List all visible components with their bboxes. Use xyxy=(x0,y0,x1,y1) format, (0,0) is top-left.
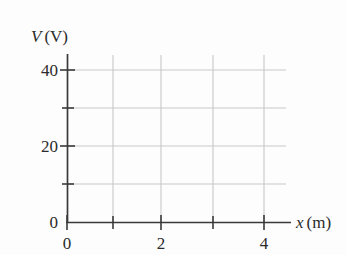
horizontal-gridlines xyxy=(67,70,286,184)
y-tick-label-0: 0 xyxy=(24,214,58,231)
x-tick-label-4: 4 xyxy=(260,235,269,252)
x-tick-label-0: 0 xyxy=(63,235,72,252)
x-axis-variable: x xyxy=(296,213,304,232)
y-tick-label-20: 20 xyxy=(24,138,58,155)
graph-figure: 40 20 0 0 2 4 V(V) x(m) xyxy=(0,0,346,255)
x-axis-title: x(m) xyxy=(296,214,331,231)
vertical-gridlines xyxy=(113,55,264,222)
x-axis-unit: (m) xyxy=(307,213,332,232)
y-tick-label-40: 40 xyxy=(24,62,58,79)
y-axis-variable: V xyxy=(31,27,41,46)
x-tick-label-2: 2 xyxy=(157,235,166,252)
y-axis-title: V(V) xyxy=(31,28,68,45)
y-axis-unit: (V) xyxy=(44,27,68,46)
